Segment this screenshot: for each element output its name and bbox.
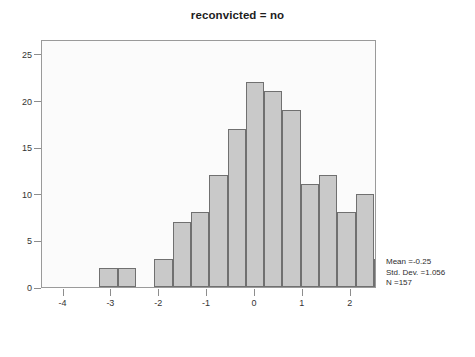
histogram-bar (191, 212, 209, 287)
x-axis-tick-mark (158, 289, 159, 296)
chart-title: reconvicted = no (0, 9, 475, 21)
x-axis-tick-mark (254, 289, 255, 296)
histogram-bar (99, 268, 117, 287)
histogram-bar (173, 222, 191, 287)
y-axis-tick-mark (34, 241, 41, 242)
bars-layer (42, 41, 375, 287)
y-axis-tick-label: 15 (22, 142, 32, 154)
histogram-bar (209, 175, 227, 287)
y-axis-tick-label: 20 (22, 96, 32, 108)
x-axis-tick-mark (63, 289, 64, 296)
stats-annotation: Mean =-0.25 Std. Dev. =1.056 N =157 (386, 257, 445, 289)
stat-std-dev: Std. Dev. =1.056 (386, 268, 445, 279)
x-axis-tick-mark (206, 289, 207, 296)
x-axis-tick-label: 0 (239, 298, 269, 308)
y-axis-tick: 20 (0, 96, 41, 108)
y-axis-tick-mark (34, 54, 41, 55)
y-axis-tick-label: 25 (22, 49, 32, 61)
y-axis-tick-mark (34, 194, 41, 195)
x-axis: -4-3-2-1012 (0, 289, 475, 329)
y-axis-tick-label: 10 (22, 189, 32, 201)
y-axis-tick-mark (34, 148, 41, 149)
stat-n: N =157 (386, 278, 445, 289)
histogram-bar (118, 268, 136, 287)
stat-mean: Mean =-0.25 (386, 257, 445, 268)
y-axis-tick: 5 (0, 235, 41, 247)
histogram-bar (228, 129, 246, 288)
x-axis-tick-mark (302, 289, 303, 296)
histogram-bar (319, 175, 337, 287)
histogram-bar (301, 184, 319, 287)
plot-area (41, 40, 376, 288)
histogram-bar (264, 91, 282, 287)
x-axis-tick-label: -2 (143, 298, 173, 308)
y-axis-tick-mark (34, 101, 41, 102)
y-axis-tick-label: 5 (27, 235, 32, 247)
histogram-bar (374, 259, 375, 287)
histogram-bar (154, 259, 172, 287)
x-axis-tick-label: -1 (191, 298, 221, 308)
y-axis-tick: 25 (0, 49, 41, 61)
histogram-bar (282, 110, 300, 287)
x-axis-tick-mark (110, 289, 111, 296)
x-axis-tick-label: -4 (48, 298, 78, 308)
y-axis-tick: 15 (0, 142, 41, 154)
x-axis-tick-label: 1 (287, 298, 317, 308)
x-axis-tick-label: -3 (95, 298, 125, 308)
histogram-bar (246, 82, 264, 287)
x-axis-tick-mark (350, 289, 351, 296)
plot-inner (42, 41, 375, 287)
histogram-bar (337, 212, 355, 287)
x-axis-tick-label: 2 (335, 298, 365, 308)
histogram-chart: reconvicted = no 0510152025 -4-3-2-1012 … (0, 0, 475, 357)
y-axis-tick: 10 (0, 189, 41, 201)
histogram-bar (356, 194, 374, 287)
